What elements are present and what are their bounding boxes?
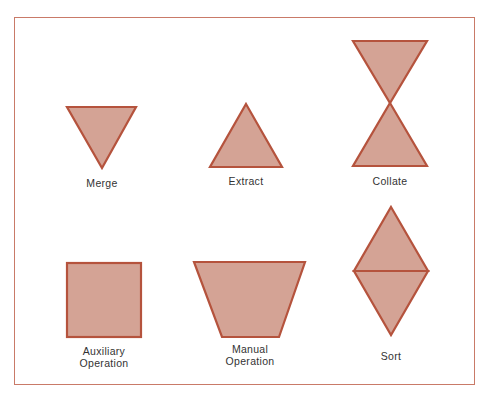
auxiliary-operation-symbol: [67, 263, 141, 337]
manual-operation-label: Manual Operation: [190, 343, 310, 367]
sort-symbol: [354, 207, 428, 335]
label-line: Operation: [44, 357, 164, 369]
manual-operation-symbol: [194, 262, 305, 337]
flowchart-symbols: [0, 0, 490, 393]
sort-label: Sort: [331, 350, 451, 362]
collate-symbol: [353, 41, 427, 166]
merge-label: Merge: [42, 177, 162, 189]
auxiliary-operation-label: Auxiliary Operation: [44, 345, 164, 369]
extract-symbol: [210, 104, 282, 167]
label-line: Operation: [190, 355, 310, 367]
collate-label: Collate: [330, 175, 450, 187]
merge-symbol: [67, 107, 136, 168]
label-line: Auxiliary: [44, 345, 164, 357]
extract-label: Extract: [186, 175, 306, 187]
label-line: Manual: [190, 343, 310, 355]
